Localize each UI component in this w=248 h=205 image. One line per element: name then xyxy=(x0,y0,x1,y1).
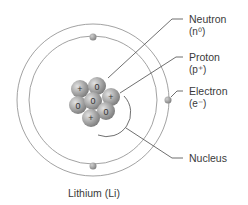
proton-label: Proton xyxy=(189,51,220,63)
nucleus-label: Nucleus xyxy=(189,152,227,164)
svg-text:0: 0 xyxy=(103,107,108,117)
neutron-leader xyxy=(108,19,183,78)
proton-symbol: (p⁺) xyxy=(189,64,206,76)
svg-text:+: + xyxy=(88,113,93,123)
diagram-title: Lithium (Li) xyxy=(68,187,120,199)
svg-text:+: + xyxy=(77,84,82,94)
neutron-symbol: (n⁰) xyxy=(189,26,205,38)
svg-text:+: + xyxy=(108,92,113,102)
svg-text:0: 0 xyxy=(90,96,95,106)
electron-leader xyxy=(171,91,183,97)
electron-top xyxy=(90,34,97,41)
svg-text:0: 0 xyxy=(94,82,99,92)
electron-right xyxy=(165,97,172,104)
atom-diagram: + 0 + 0 0 0 + xyxy=(0,0,248,205)
neutron-label: Neutron xyxy=(189,13,226,25)
electron-symbol: (e⁻) xyxy=(189,98,206,110)
electron-label: Electron xyxy=(189,85,228,97)
electron-bottom xyxy=(90,163,97,170)
svg-text:0: 0 xyxy=(75,101,80,111)
nucleus-leader xyxy=(126,128,183,158)
